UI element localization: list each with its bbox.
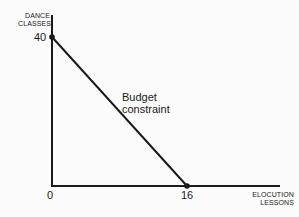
y-intercept-point bbox=[49, 34, 55, 40]
origin-tick: 0 bbox=[47, 189, 53, 201]
y-axis-title-line1: DANCE bbox=[18, 12, 50, 20]
x-intercept-point bbox=[184, 183, 190, 189]
annotation-line1: Budget bbox=[122, 91, 170, 103]
annotation-line2: constraint bbox=[122, 103, 170, 115]
x-axis-title-line1: ELOCUTION bbox=[244, 191, 294, 199]
budget-constraint-annotation: Budget constraint bbox=[122, 91, 170, 115]
x-axis-title: ELOCUTION LESSONS bbox=[244, 191, 294, 207]
y-tick-40: 40 bbox=[34, 31, 46, 43]
y-axis-title-line2: CLASSES bbox=[18, 20, 50, 28]
y-axis-title: DANCE CLASSES bbox=[18, 12, 50, 28]
x-axis-title-line2: LESSONS bbox=[244, 199, 294, 207]
x-tick-16: 16 bbox=[181, 189, 193, 201]
